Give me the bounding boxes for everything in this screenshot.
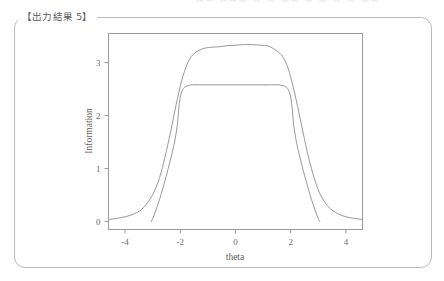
output-result-panel	[14, 17, 432, 268]
output-result-panel-label: 【出力結果 5】	[18, 10, 97, 24]
header-faint-text: —— ——— — — —— — — — — ——	[196, 0, 380, 5]
page-header-strip: —— ——— — — —— — — — — ——	[0, 0, 444, 10]
